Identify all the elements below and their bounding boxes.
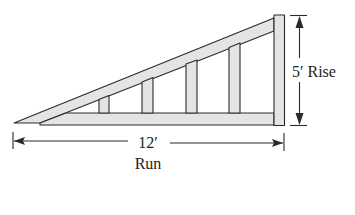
vertical-member-4 (229, 43, 240, 113)
rise-label: 5′ Rise (292, 63, 336, 80)
vertical-member-3 (186, 60, 197, 113)
run-label: Run (135, 155, 162, 172)
truss-diagram: 5′ Rise 12′ Run (0, 0, 355, 215)
vertical-member-2 (142, 78, 153, 114)
arrow-down-icon (296, 113, 304, 125)
truss (14, 15, 285, 126)
arrow-up-icon (296, 16, 304, 28)
end-post (274, 15, 285, 126)
bottom-chord (40, 113, 274, 125)
run-value: 12′ (138, 134, 158, 151)
